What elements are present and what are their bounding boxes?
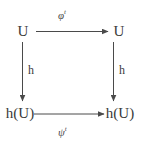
- edge-label-psi: ψt: [58, 126, 67, 138]
- node-bottom-left: h(U): [1, 106, 39, 121]
- edge-label-phi: φt: [58, 9, 66, 21]
- node-top-left: U: [10, 24, 36, 39]
- node-top-right: U: [106, 24, 132, 39]
- commutative-diagram: U U h(U) h(U) φt ψt h h: [0, 0, 142, 148]
- edge-label-psi-base: ψ: [58, 126, 65, 138]
- node-bottom-right: h(U): [100, 106, 140, 121]
- edge-label-phi-superscript: t: [64, 8, 66, 16]
- edge-label-h-right: h: [119, 64, 125, 76]
- edge-label-psi-superscript: t: [65, 125, 67, 133]
- edge-label-h-left: h: [28, 64, 34, 76]
